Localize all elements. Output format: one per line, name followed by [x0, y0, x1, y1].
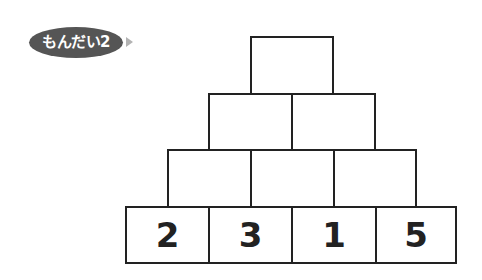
pyramid-cell-r4-c4: 5 [375, 206, 457, 264]
pyramid-cell-r4-c1: 2 [125, 206, 210, 264]
pyramid-cell-r3-c3[interactable] [333, 149, 417, 208]
pyramid-cell-r2-c1[interactable] [208, 93, 293, 151]
pyramid-cell-r1-c1[interactable] [250, 36, 334, 95]
pyramid-cell-r4-c2: 3 [208, 206, 293, 264]
pyramid-cell-r3-c2[interactable] [250, 149, 335, 208]
triangle-right-icon [126, 37, 133, 47]
pyramid-cell-r2-c2[interactable] [291, 93, 376, 151]
problem-badge: もんだい2 [29, 27, 123, 58]
pyramid-cell-r3-c1[interactable] [167, 149, 252, 208]
pyramid-cell-r4-c3: 1 [291, 206, 377, 264]
